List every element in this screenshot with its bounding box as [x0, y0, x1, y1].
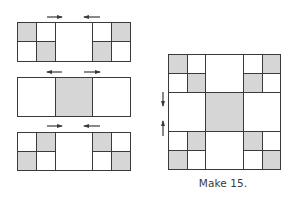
white-patch [17, 132, 37, 152]
arrow-left-icon [46, 70, 62, 74]
arrow-left-icon [83, 15, 100, 19]
white-patch [92, 151, 112, 171]
white-patch [92, 22, 112, 42]
gray-patch [92, 132, 112, 152]
caption-make-15: Make 15. [195, 177, 251, 189]
white-patch [243, 150, 263, 170]
gray-patch [36, 41, 56, 62]
gray-patch [36, 132, 56, 152]
white-patch [55, 132, 93, 171]
white-patch [111, 132, 131, 152]
gray-patch [92, 41, 112, 62]
white-patch [243, 92, 281, 132]
gray-patch [168, 150, 188, 170]
arrow-right-icon [47, 124, 63, 128]
white-patch [262, 73, 281, 93]
arrow-down-icon [161, 92, 165, 107]
white-patch [36, 22, 56, 42]
gray-patch [168, 54, 188, 74]
gray-patch [55, 77, 93, 117]
gray-patch [262, 150, 281, 170]
white-patch [187, 150, 206, 170]
arrow-left-icon [83, 124, 100, 128]
white-patch [92, 77, 131, 117]
white-patch [17, 77, 56, 117]
gray-patch [187, 131, 206, 151]
gray-patch [17, 151, 37, 171]
white-patch [111, 41, 131, 62]
white-patch [205, 131, 244, 170]
white-patch [168, 131, 188, 151]
white-patch [17, 41, 37, 62]
gray-patch [243, 73, 263, 93]
gray-patch [205, 92, 244, 132]
gray-patch [17, 22, 37, 42]
arrow-right-icon [47, 15, 63, 19]
white-patch [205, 54, 244, 93]
gray-patch [262, 54, 281, 74]
white-patch [168, 73, 188, 93]
white-patch [168, 92, 206, 132]
gray-patch [111, 22, 131, 42]
gray-patch [243, 131, 263, 151]
arrow-up-icon [161, 120, 165, 136]
white-patch [36, 151, 56, 171]
white-patch [262, 131, 281, 151]
gray-patch [187, 73, 206, 93]
white-patch [187, 54, 206, 74]
white-patch [243, 54, 263, 74]
arrow-right-icon [84, 70, 101, 74]
gray-patch [111, 151, 131, 171]
white-patch [55, 22, 93, 62]
